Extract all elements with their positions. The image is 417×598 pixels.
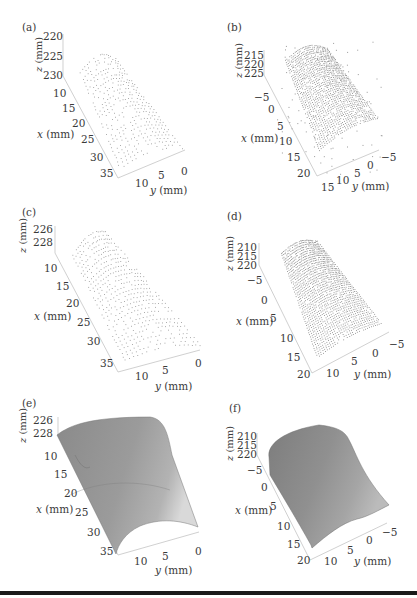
x-tick-d-0: −5 bbox=[247, 275, 262, 286]
x-tick-f-0: −5 bbox=[247, 465, 262, 476]
z-tick-f-2: 220 bbox=[237, 449, 257, 460]
y-tick-d-1: 5 bbox=[351, 356, 358, 367]
y-tick-e-2: 0 bbox=[195, 546, 202, 557]
x-tick-b-5: 20 bbox=[297, 168, 310, 179]
z-tick-e-0: 226 bbox=[33, 415, 53, 426]
z-axis-label-b: z (mm) bbox=[233, 43, 244, 78]
x-tick-c-3: 25 bbox=[77, 317, 90, 328]
y-tick-b-3: 0 bbox=[367, 160, 374, 171]
point-cloud-d bbox=[281, 240, 382, 357]
y-tick-a-1: 5 bbox=[158, 170, 165, 181]
x-tick-d-3: 10 bbox=[280, 333, 293, 344]
x-tick-a-4: 30 bbox=[90, 152, 103, 163]
x-axis-label-f: x (mm) bbox=[235, 505, 272, 516]
panel-label-d: (d) bbox=[227, 210, 242, 222]
x-tick-c-0: 10 bbox=[44, 263, 57, 274]
x-axis-label-c: x (mm) bbox=[34, 311, 71, 322]
panel-c: (c) z (mm) 226 228 10 15 20 x (mm) 25 30… bbox=[0, 195, 208, 390]
z-axis-label-d: z (mm) bbox=[224, 236, 235, 271]
y-axis-label-f: y (mm) bbox=[354, 556, 391, 567]
x-tick-f-4: 15 bbox=[287, 539, 300, 550]
x-axis-label-b: x (mm) bbox=[241, 133, 278, 144]
x-axis-label-e: x (mm) bbox=[36, 504, 73, 515]
y-tick-c-1: 5 bbox=[162, 365, 169, 376]
z-tick-a-0: 220 bbox=[43, 31, 63, 42]
y-tick-a-0: 10 bbox=[135, 178, 148, 189]
x-tick-a-2: 20 bbox=[72, 118, 85, 129]
x-tick-c-2: 20 bbox=[66, 298, 79, 309]
surface-e bbox=[57, 417, 198, 554]
y-tick-e-1: 5 bbox=[162, 551, 169, 562]
x-tick-e-3: 25 bbox=[75, 507, 88, 518]
y-axis-label-e: y (mm) bbox=[155, 565, 192, 576]
x-tick-a-3: 25 bbox=[81, 134, 94, 145]
z-tick-c-0: 226 bbox=[33, 224, 53, 235]
x-tick-f-2: 5 bbox=[270, 501, 277, 512]
x-tick-f-1: 0 bbox=[261, 482, 268, 493]
plot-area-d bbox=[207, 195, 415, 390]
y-tick-f-0: 10 bbox=[324, 556, 337, 567]
x-tick-f-5: 20 bbox=[297, 555, 310, 566]
y-tick-b-2: 5 bbox=[354, 168, 361, 179]
y-axis-label-c: y (mm) bbox=[155, 381, 192, 392]
panel-d: (d) z (mm) 210 215 220 −5 0 x (mm) 5 10 … bbox=[207, 195, 415, 390]
x-tick-e-0: 10 bbox=[44, 451, 57, 462]
x-tick-e-1: 15 bbox=[54, 469, 67, 480]
x-tick-c-5: 35 bbox=[100, 358, 113, 369]
x-tick-e-4: 30 bbox=[87, 527, 100, 538]
panel-a: (a) z (mm) 220 225 230 10 15 20 x (mm) 2… bbox=[0, 0, 208, 195]
z-axis-label-e: z (mm) bbox=[17, 408, 28, 443]
y-tick-c-0: 10 bbox=[135, 371, 148, 382]
x-tick-f-3: 10 bbox=[277, 521, 290, 532]
y-axis-label-d: y (mm) bbox=[354, 369, 391, 380]
x-tick-a-5: 35 bbox=[100, 168, 113, 179]
x-tick-b-2: 5 bbox=[277, 121, 284, 132]
bottom-rule bbox=[0, 591, 417, 595]
panel-b: (b) z (mm) 215 220 225 −5 0 5 x (mm) 10 … bbox=[207, 0, 415, 195]
x-axis-label-a: x (mm) bbox=[37, 129, 74, 140]
x-tick-d-4: 15 bbox=[287, 352, 300, 363]
x-tick-c-1: 15 bbox=[56, 281, 69, 292]
y-tick-b-4: −5 bbox=[381, 152, 396, 163]
y-tick-d-0: 10 bbox=[326, 368, 339, 379]
x-tick-e-2: 20 bbox=[64, 488, 77, 499]
plot-area-e bbox=[0, 395, 208, 590]
x-tick-c-4: 30 bbox=[87, 336, 100, 347]
panel-f: (f) z (mm) 210 215 220 −5 0 x (mm) 5 10 … bbox=[207, 395, 415, 590]
panel-e: (e) z (mm) 226 228 10 15 20 x (mm) 25 30… bbox=[0, 395, 208, 590]
y-tick-a-2: 0 bbox=[181, 166, 188, 177]
z-axis-label-f: z (mm) bbox=[224, 426, 235, 461]
z-tick-b-2: 225 bbox=[244, 68, 264, 79]
z-tick-e-1: 228 bbox=[33, 428, 53, 439]
y-tick-b-0: 15 bbox=[321, 182, 334, 193]
point-cloud-a bbox=[80, 54, 183, 167]
x-tick-d-1: 0 bbox=[261, 295, 268, 306]
y-tick-f-3: −5 bbox=[382, 527, 397, 538]
z-axis-label-c: z (mm) bbox=[17, 218, 28, 253]
x-tick-a-1: 15 bbox=[62, 103, 75, 114]
y-tick-d-2: 0 bbox=[372, 348, 379, 359]
x-axis-label-d: x (mm) bbox=[236, 316, 273, 327]
y-tick-e-0: 10 bbox=[134, 556, 147, 567]
x-tick-b-1: 0 bbox=[268, 104, 275, 115]
y-tick-f-1: 5 bbox=[347, 545, 354, 556]
x-tick-b-3: 10 bbox=[279, 136, 292, 147]
z-tick-a-2: 230 bbox=[43, 70, 63, 81]
panel-label-f: (f) bbox=[229, 402, 241, 414]
z-tick-d-2: 220 bbox=[237, 260, 257, 271]
x-tick-d-2: 5 bbox=[270, 313, 277, 324]
panel-label-c: (c) bbox=[22, 206, 36, 218]
panel-label-b: (b) bbox=[227, 21, 242, 33]
y-axis-label-b: y (mm) bbox=[352, 181, 389, 192]
x-tick-e-5: 35 bbox=[100, 546, 113, 557]
y-tick-b-1: 10 bbox=[336, 175, 349, 186]
x-tick-a-0: 10 bbox=[53, 88, 66, 99]
y-tick-d-3: −5 bbox=[389, 339, 404, 350]
z-tick-c-1: 228 bbox=[33, 237, 53, 248]
y-tick-f-2: 0 bbox=[366, 535, 373, 546]
x-tick-b-4: 15 bbox=[287, 152, 300, 163]
x-tick-d-5: 20 bbox=[297, 369, 310, 380]
panel-label-a: (a) bbox=[22, 21, 36, 33]
y-tick-c-2: 0 bbox=[195, 358, 202, 369]
x-tick-b-0: −5 bbox=[254, 92, 269, 103]
